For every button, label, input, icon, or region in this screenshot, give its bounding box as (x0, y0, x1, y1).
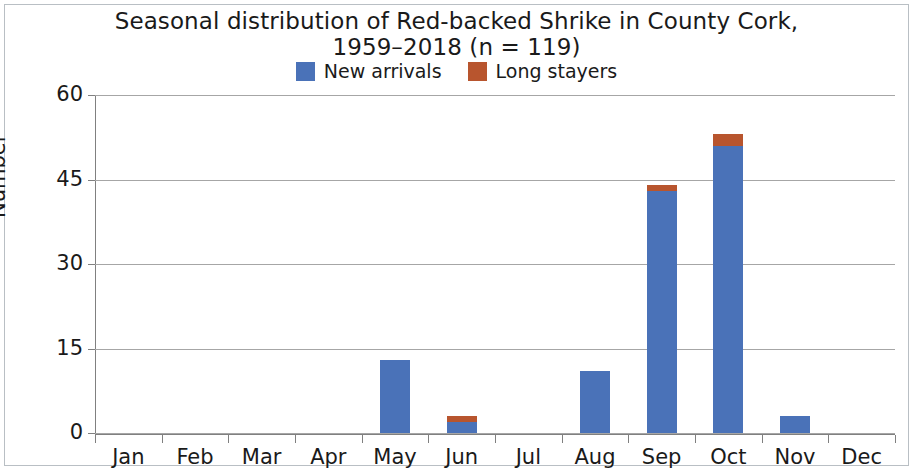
legend-swatch-long-stayers (468, 62, 487, 81)
gridline (95, 349, 895, 350)
bar-sep[interactable] (647, 185, 677, 433)
plot-area (95, 95, 895, 433)
x-tick-mark (628, 435, 629, 443)
x-tick-mark (762, 435, 763, 443)
chart-title-line-1: Seasonal distribution of Red-backed Shri… (40, 8, 873, 34)
bar-segment-new-arrivals[interactable] (713, 146, 743, 433)
y-axis-title: Number (0, 134, 10, 218)
bar-segment-new-arrivals[interactable] (580, 371, 610, 433)
bar-segment-new-arrivals[interactable] (380, 360, 410, 433)
legend-label-long-stayers: Long stayers (496, 62, 618, 81)
x-tick-label-jul: Jul (495, 446, 561, 468)
legend-item-long-stayers[interactable]: Long stayers (468, 62, 618, 81)
x-tick-mark (695, 435, 696, 443)
bar-aug[interactable] (580, 371, 610, 433)
x-tick-label-oct: Oct (695, 446, 761, 468)
bar-nov[interactable] (780, 416, 810, 433)
x-tick-mark (95, 435, 96, 443)
x-tick-label-dec: Dec (829, 446, 895, 468)
x-tick-label-jun: Jun (429, 446, 495, 468)
x-tick-mark (895, 435, 896, 443)
gridline (95, 433, 895, 434)
x-tick-label-may: May (362, 446, 428, 468)
y-tick-label: 60 (33, 84, 83, 105)
x-tick-mark (428, 435, 429, 443)
x-tick-label-aug: Aug (562, 446, 628, 468)
gridline (95, 264, 895, 265)
y-tick-label: 45 (33, 169, 83, 190)
x-tick-label-jan: Jan (95, 446, 161, 468)
bar-segment-new-arrivals[interactable] (447, 422, 477, 433)
legend-label-new-arrivals: New arrivals (324, 62, 442, 81)
bar-segment-new-arrivals[interactable] (780, 416, 810, 433)
bar-segment-new-arrivals[interactable] (647, 191, 677, 433)
y-tick-label: 30 (33, 253, 83, 274)
gridline (95, 95, 895, 96)
x-tick-mark (495, 435, 496, 443)
bar-oct[interactable] (713, 134, 743, 433)
legend-swatch-new-arrivals (296, 62, 315, 81)
x-tick-mark (562, 435, 563, 443)
x-tick-label-sep: Sep (629, 446, 695, 468)
gridline (95, 180, 895, 181)
y-tick-label: 15 (33, 338, 83, 359)
x-tick-label-mar: Mar (229, 446, 295, 468)
chart-title-line-2: 1959–2018 (n = 119) (40, 34, 873, 60)
x-tick-label-nov: Nov (762, 446, 828, 468)
x-tick-mark (362, 435, 363, 443)
x-tick-label-apr: Apr (295, 446, 361, 468)
y-tick-label: 0 (33, 422, 83, 443)
chart-figure: Seasonal distribution of Red-backed Shri… (0, 0, 913, 470)
bar-may[interactable] (380, 360, 410, 433)
x-tick-mark (828, 435, 829, 443)
x-tick-mark (295, 435, 296, 443)
legend-item-new-arrivals[interactable]: New arrivals (296, 62, 442, 81)
x-tick-label-feb: Feb (162, 446, 228, 468)
chart-title: Seasonal distribution of Red-backed Shri… (40, 8, 873, 60)
x-tick-mark (162, 435, 163, 443)
bar-segment-long-stayers[interactable] (713, 134, 743, 145)
chart-legend: New arrivals Long stayers (0, 62, 913, 81)
bar-jun[interactable] (447, 416, 477, 433)
x-tick-mark (228, 435, 229, 443)
